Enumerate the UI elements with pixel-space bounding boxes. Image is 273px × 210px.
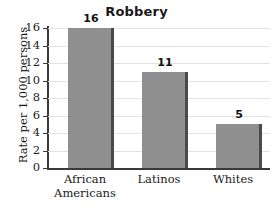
x-axis-tick-label-line: African xyxy=(48,172,122,186)
y-axis-tick-label: 12 xyxy=(20,57,40,68)
x-axis-tick-label: Whites xyxy=(196,172,270,186)
x-axis-tick-label: Latinos xyxy=(122,172,196,186)
x-axis-tick-label-line: Americans xyxy=(48,186,122,200)
y-axis-tick-mark xyxy=(43,46,48,47)
y-axis-tick-mark xyxy=(43,151,48,152)
plot-area xyxy=(48,28,270,168)
chart-title: Robbery xyxy=(0,4,273,19)
y-axis-tick-mark xyxy=(43,133,48,134)
y-axis-tick-label: 2 xyxy=(20,145,40,156)
y-axis-tick-label: 14 xyxy=(20,40,40,51)
bar-value-label: 5 xyxy=(216,108,262,121)
y-axis-tick-label: 0 xyxy=(20,162,40,173)
x-axis-tick-label-line: Whites xyxy=(196,172,270,186)
bar xyxy=(142,72,188,168)
bar-value-label: 16 xyxy=(68,12,114,25)
x-axis-tick-labels: AfricanAmericansLatinosWhites xyxy=(48,172,270,210)
y-axis-tick-label: 10 xyxy=(20,75,40,86)
bar-value-label: 11 xyxy=(142,56,188,69)
y-axis-tick-mark xyxy=(43,98,48,99)
y-axis-tick-mark xyxy=(43,168,48,169)
x-axis-tick-label: AfricanAmericans xyxy=(48,172,122,200)
y-axis-tick-label: 6 xyxy=(20,110,40,121)
bar xyxy=(216,124,262,168)
robbery-bar-chart: Robbery Rate per 1,000 persons 161412108… xyxy=(0,0,273,210)
y-axis-tick-label: 8 xyxy=(20,92,40,103)
y-axis-tick-mark xyxy=(43,28,48,29)
x-axis-tick-label-line: Latinos xyxy=(122,172,196,186)
y-axis-tick-mark xyxy=(43,81,48,82)
y-axis-tick-labels: 1614121086420 xyxy=(18,0,40,210)
y-axis-tick-label: 4 xyxy=(20,127,40,138)
y-axis-tick-label: 16 xyxy=(20,22,40,33)
bar xyxy=(68,28,114,168)
x-axis-line xyxy=(47,168,270,170)
y-axis-tick-mark xyxy=(43,116,48,117)
y-axis-tick-mark xyxy=(43,63,48,64)
